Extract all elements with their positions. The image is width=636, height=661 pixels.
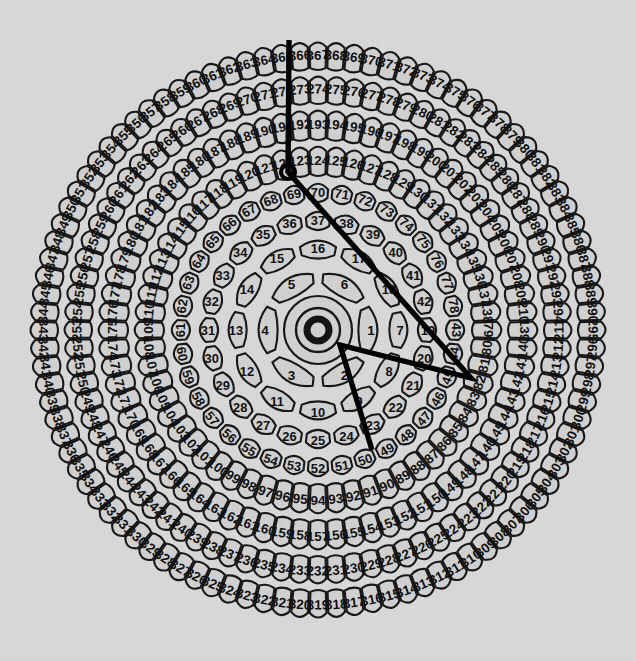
petal-label: 32 <box>205 294 219 309</box>
petal-label: 51 <box>334 457 351 474</box>
diagram-stage: 1234567891011121314151617181920212223242… <box>0 0 636 661</box>
petal-label: 138 <box>478 300 495 324</box>
petal-label: 61 <box>173 323 188 337</box>
petal-label: 390 <box>584 300 600 323</box>
petal-label: 1 <box>367 323 375 338</box>
petal-label: 30 <box>205 351 219 366</box>
petal-label: 42 <box>417 294 431 309</box>
petal-label: 43 <box>449 323 464 337</box>
petal-label: 21 <box>406 378 420 393</box>
petal-label: 28 <box>233 400 247 415</box>
petal-label: 6 <box>341 277 349 292</box>
petal-label: 31 <box>201 323 215 338</box>
petal-label: 78 <box>445 298 462 315</box>
rosette-figure: 1234567891011121314151617181920212223242… <box>0 0 636 661</box>
petal-label: 4 <box>261 323 269 338</box>
petal-label: 7 <box>396 323 403 338</box>
petal-label: 95 <box>292 491 309 508</box>
petal-label: 25 <box>311 433 325 448</box>
petal-label: 10 <box>311 405 325 420</box>
petal-label: 92 <box>344 487 362 505</box>
petal-label: 5 <box>288 277 296 292</box>
petal-label: 12 <box>240 364 254 379</box>
petal-label: 29 <box>216 378 230 393</box>
petal-label: 40 <box>389 245 403 260</box>
petal-label: 79 <box>481 322 496 337</box>
petal-label: 36 <box>282 216 296 231</box>
petal-label: 34 <box>233 245 248 260</box>
petal-label: 35 <box>256 227 270 242</box>
petal-label: 33 <box>216 268 230 283</box>
petal-label: 22 <box>389 400 403 415</box>
petal-label: 13 <box>229 323 243 338</box>
petal-label: 294 <box>550 300 567 324</box>
petal-label: 14 <box>240 282 255 297</box>
petal-label: 11 <box>270 394 284 409</box>
petal-label: 80 <box>479 340 495 357</box>
petal-label: 62 <box>173 298 190 315</box>
petal-label: 71 <box>334 185 351 202</box>
petal-label: 60 <box>173 346 190 363</box>
petal-label: 15 <box>270 251 284 266</box>
hub-core <box>307 319 329 341</box>
petal-label: 8 <box>385 364 392 379</box>
petal-label: 39 <box>366 227 380 242</box>
petal-label: 53 <box>286 457 303 474</box>
petal-label: 210 <box>515 300 532 324</box>
petal-label: 16 <box>311 241 325 256</box>
petal-label: 3 <box>288 368 296 383</box>
petal-label: 27 <box>256 418 270 433</box>
petal-label: 41 <box>406 268 420 283</box>
petal-label: 93 <box>328 491 345 508</box>
petal-label: 52 <box>311 461 325 476</box>
petal-label: 94 <box>310 493 326 508</box>
petal-label: 24 <box>339 429 354 444</box>
petal-label: 26 <box>282 429 296 444</box>
